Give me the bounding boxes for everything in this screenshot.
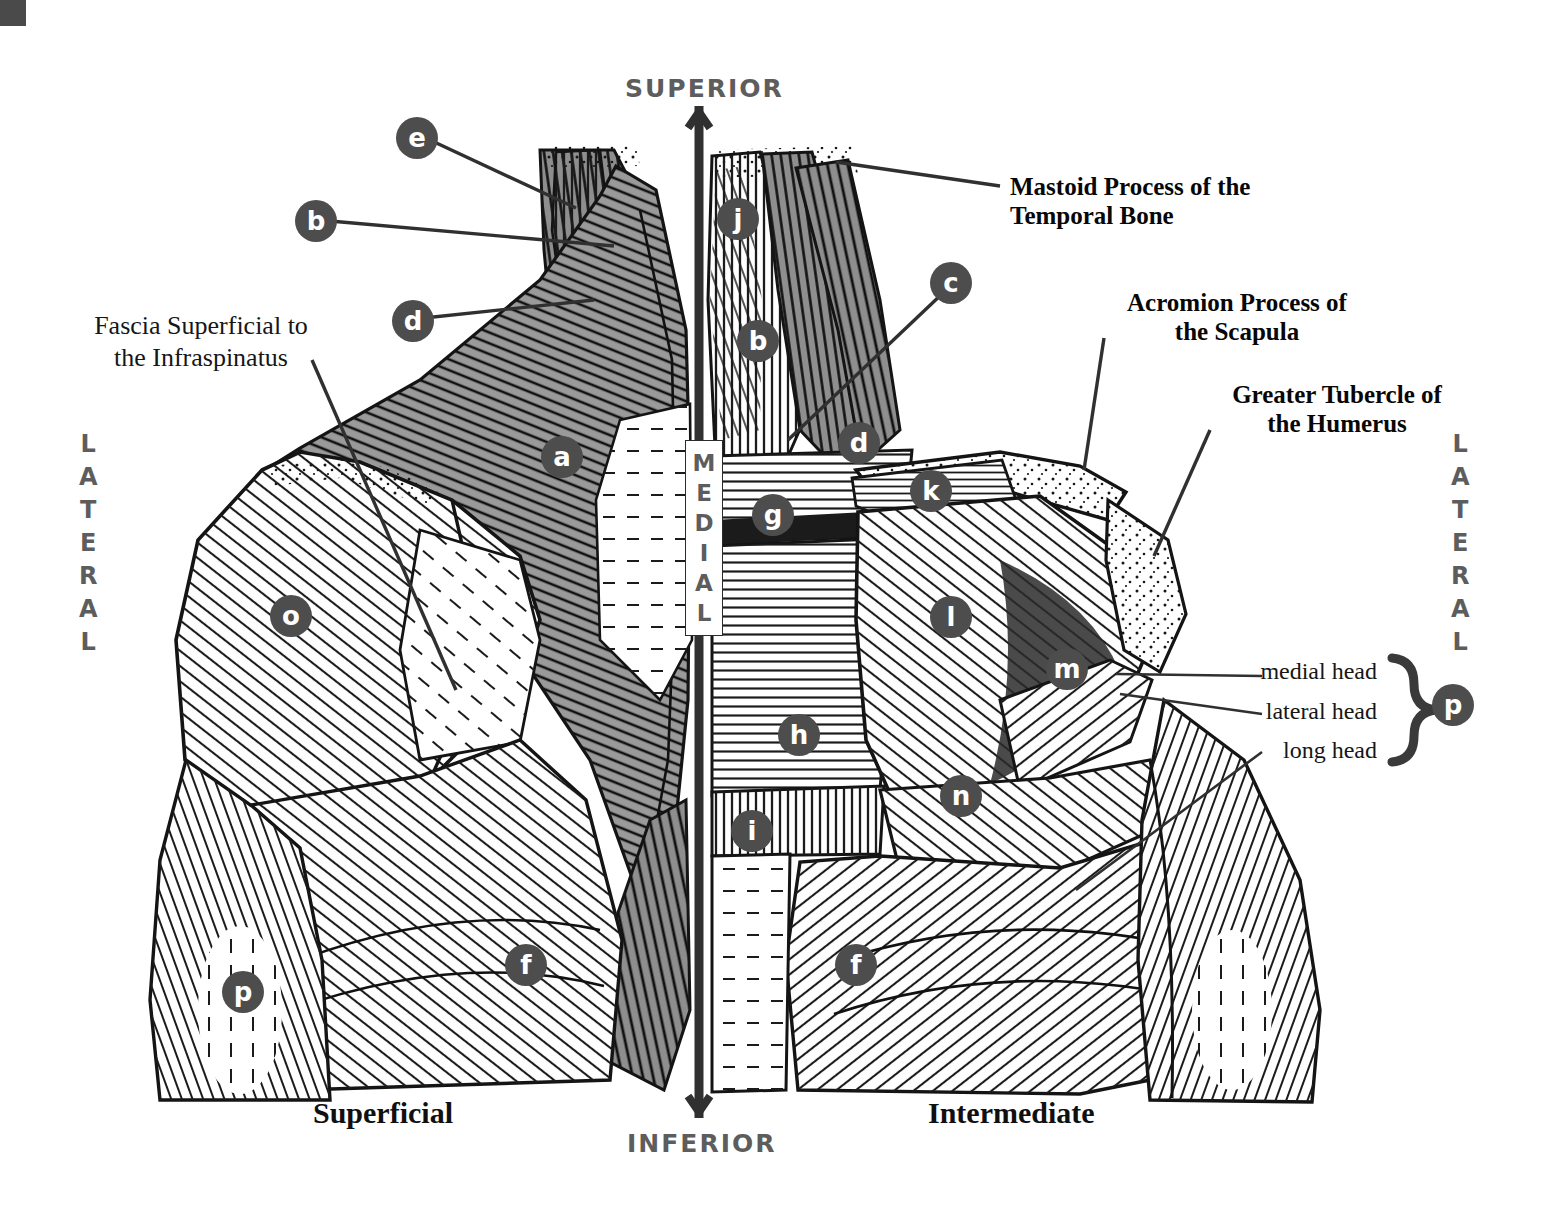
label-fascia-superficial-infraspinatus: Fascia Superficial to the Infraspinatus (76, 310, 326, 374)
caption-intermediate: Intermediate (928, 1096, 1095, 1130)
medial-letter: L (686, 598, 722, 628)
marker-n[interactable]: n (940, 775, 982, 817)
lateral-right-letter: E (1444, 527, 1478, 560)
lateral-left-letter: A (72, 593, 106, 626)
lateral-left-letter: R (72, 560, 106, 593)
lateral-left-letter: L (72, 428, 106, 461)
figure-canvas: SUPERIOR INFERIOR L A T E R A L L A T E … (0, 0, 1542, 1222)
marker-j[interactable]: j (717, 198, 759, 240)
label-line: Fascia Superficial to (76, 310, 326, 342)
marker-f[interactable]: f (835, 944, 877, 986)
marker-f[interactable]: f (505, 944, 547, 986)
lateral-right-letter: L (1444, 626, 1478, 659)
orientation-medial: M E D I A L (685, 440, 723, 636)
marker-m[interactable]: m (1046, 648, 1088, 690)
lateral-left-letter: A (72, 461, 106, 494)
lateral-right-letter: R (1444, 560, 1478, 593)
orientation-lateral-left: L A T E R A L (72, 428, 106, 659)
callout-mastoid-process: Mastoid Process of the Temporal Bone (1010, 172, 1250, 230)
lateral-left-letter: L (72, 626, 106, 659)
medial-letter: E (686, 478, 722, 508)
callout-line: Greater Tubercle of (1208, 380, 1466, 409)
callout-line: the Humerus (1208, 409, 1466, 438)
medial-letter: D (686, 508, 722, 538)
medial-letter: A (686, 568, 722, 598)
marker-g[interactable]: g (752, 494, 794, 536)
lateral-right-letter: A (1444, 461, 1478, 494)
marker-e[interactable]: e (396, 117, 438, 159)
label-medial-head: medial head (1197, 658, 1377, 685)
marker-l[interactable]: l (930, 596, 972, 638)
callout-acromion-process: Acromion Process of the Scapula (1096, 288, 1378, 346)
callout-greater-tubercle: Greater Tubercle of the Humerus (1208, 380, 1466, 438)
marker-a[interactable]: a (541, 436, 583, 478)
callout-line: Acromion Process of (1096, 288, 1378, 317)
orientation-inferior: INFERIOR (627, 1129, 776, 1158)
orientation-lateral-right: L A T E R A L (1444, 428, 1478, 659)
lateral-left-letter: E (72, 527, 106, 560)
marker-p[interactable]: p (222, 971, 264, 1013)
lateral-right-letter: T (1444, 494, 1478, 527)
medial-letter: M (686, 448, 722, 478)
marker-o[interactable]: o (270, 595, 312, 637)
callout-line: Mastoid Process of the (1010, 172, 1250, 201)
superficial-view-art (150, 146, 692, 1100)
lateral-left-letter: T (72, 494, 106, 527)
marker-d[interactable]: d (838, 422, 880, 464)
orientation-superior: SUPERIOR (625, 74, 784, 103)
anatomy-illustration (0, 0, 1542, 1222)
marker-i[interactable]: i (731, 810, 773, 852)
medial-letter: I (686, 538, 722, 568)
marker-h[interactable]: h (778, 714, 820, 756)
marker-b[interactable]: b (295, 200, 337, 242)
marker-d[interactable]: d (392, 300, 434, 342)
label-line: the Infraspinatus (76, 342, 326, 374)
callout-line: the Scapula (1096, 317, 1378, 346)
caption-superficial: Superficial (313, 1096, 453, 1130)
marker-k[interactable]: k (910, 470, 952, 512)
callout-line: Temporal Bone (1010, 201, 1250, 230)
marker-c[interactable]: c (930, 262, 972, 304)
marker-p[interactable]: p (1432, 684, 1474, 726)
label-lateral-head: lateral head (1197, 698, 1377, 725)
lateral-right-letter: A (1444, 593, 1478, 626)
label-long-head: long head (1197, 737, 1377, 764)
marker-b[interactable]: b (737, 320, 779, 362)
